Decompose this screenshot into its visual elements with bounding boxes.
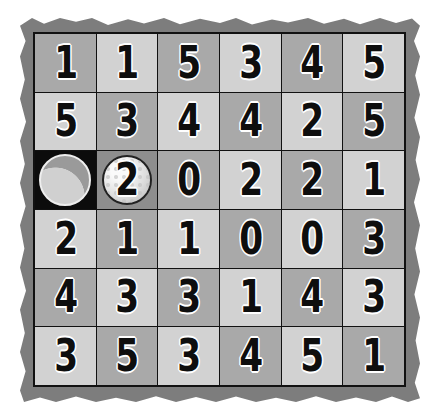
grid-cell[interactable]: 1: [35, 34, 96, 92]
grid-cell[interactable]: 3: [158, 269, 219, 327]
cell-value: 5: [362, 41, 385, 85]
ball-value: 2: [115, 158, 138, 202]
cell-value: 5: [115, 334, 138, 378]
grid-cell[interactable]: 3: [220, 34, 281, 92]
grid-cell[interactable]: 1: [97, 34, 158, 92]
cell-value: 3: [177, 334, 200, 378]
cell-value: 0: [177, 158, 200, 202]
cell-value: 3: [362, 217, 385, 261]
cell-value: 1: [115, 217, 138, 261]
grid-cell[interactable]: 3: [343, 269, 404, 327]
cell-value: 1: [362, 158, 385, 202]
grid-cell[interactable]: 4: [220, 93, 281, 151]
grid-cell[interactable]: 0: [282, 210, 343, 268]
grid-cell[interactable]: 2: [220, 151, 281, 209]
cell-value: 2: [300, 99, 323, 143]
grid-cell[interactable]: 5: [343, 93, 404, 151]
cell-value: 1: [239, 275, 262, 319]
grid-cell[interactable]: 2: [282, 93, 343, 151]
grid-cell[interactable]: 3: [97, 269, 158, 327]
grid-cell[interactable]: 0: [220, 210, 281, 268]
grid-cell[interactable]: 2: [282, 151, 343, 209]
grid-cell[interactable]: 5: [35, 93, 96, 151]
cell-value: 0: [300, 217, 323, 261]
grid-cell[interactable]: 1: [97, 210, 158, 268]
grid-cell[interactable]: 5: [282, 327, 343, 385]
cell-value: 4: [300, 275, 323, 319]
grid-cell[interactable]: 4: [282, 34, 343, 92]
grid-cell[interactable]: 5: [97, 327, 158, 385]
cell-value: 5: [54, 99, 77, 143]
cell-value: 5: [300, 334, 323, 378]
game-board: 11534553442520221211003433143353451: [33, 32, 406, 387]
cell-value: 4: [177, 99, 200, 143]
grid-cell[interactable]: 0: [158, 151, 219, 209]
cell-value: 3: [362, 275, 385, 319]
cell-value: 1: [177, 217, 200, 261]
cell-value: 5: [362, 99, 385, 143]
grid-cell[interactable]: 4: [158, 93, 219, 151]
cell-value: 1: [362, 334, 385, 378]
grid-cell[interactable]: 5: [343, 34, 404, 92]
grid-cell[interactable]: 5: [158, 34, 219, 92]
cell-value: 4: [300, 41, 323, 85]
cell-value: 4: [54, 275, 77, 319]
cell-value: 3: [115, 275, 138, 319]
cell-value: 1: [54, 41, 77, 85]
cell-value: 3: [54, 334, 77, 378]
cell-value: 3: [239, 41, 262, 85]
grid-cell[interactable]: 2: [35, 210, 96, 268]
golf-hole-icon[interactable]: [39, 154, 91, 206]
cell-value: 4: [239, 99, 262, 143]
grid-cell[interactable]: 4: [220, 327, 281, 385]
grid-cell[interactable]: 3: [35, 327, 96, 385]
cell-value: 4: [239, 334, 262, 378]
cell-value: 2: [300, 158, 323, 202]
ball-cell[interactable]: 2: [97, 151, 158, 209]
cell-value: 3: [177, 275, 200, 319]
cell-value: 5: [177, 41, 200, 85]
hole-cell[interactable]: [35, 151, 96, 209]
cell-value: 2: [239, 158, 262, 202]
grid-cell[interactable]: 1: [343, 327, 404, 385]
cell-value: 3: [115, 99, 138, 143]
grid-cell[interactable]: 1: [158, 210, 219, 268]
cell-value: 1: [115, 41, 138, 85]
grid-cell[interactable]: 4: [282, 269, 343, 327]
grid-cell[interactable]: 3: [97, 93, 158, 151]
cell-value: 0: [239, 217, 262, 261]
grid-cell[interactable]: 1: [343, 151, 404, 209]
grid-cell[interactable]: 3: [158, 327, 219, 385]
cell-value: 2: [54, 217, 77, 261]
grid-cell[interactable]: 1: [220, 269, 281, 327]
grid-cell[interactable]: 3: [343, 210, 404, 268]
grid-cell[interactable]: 4: [35, 269, 96, 327]
